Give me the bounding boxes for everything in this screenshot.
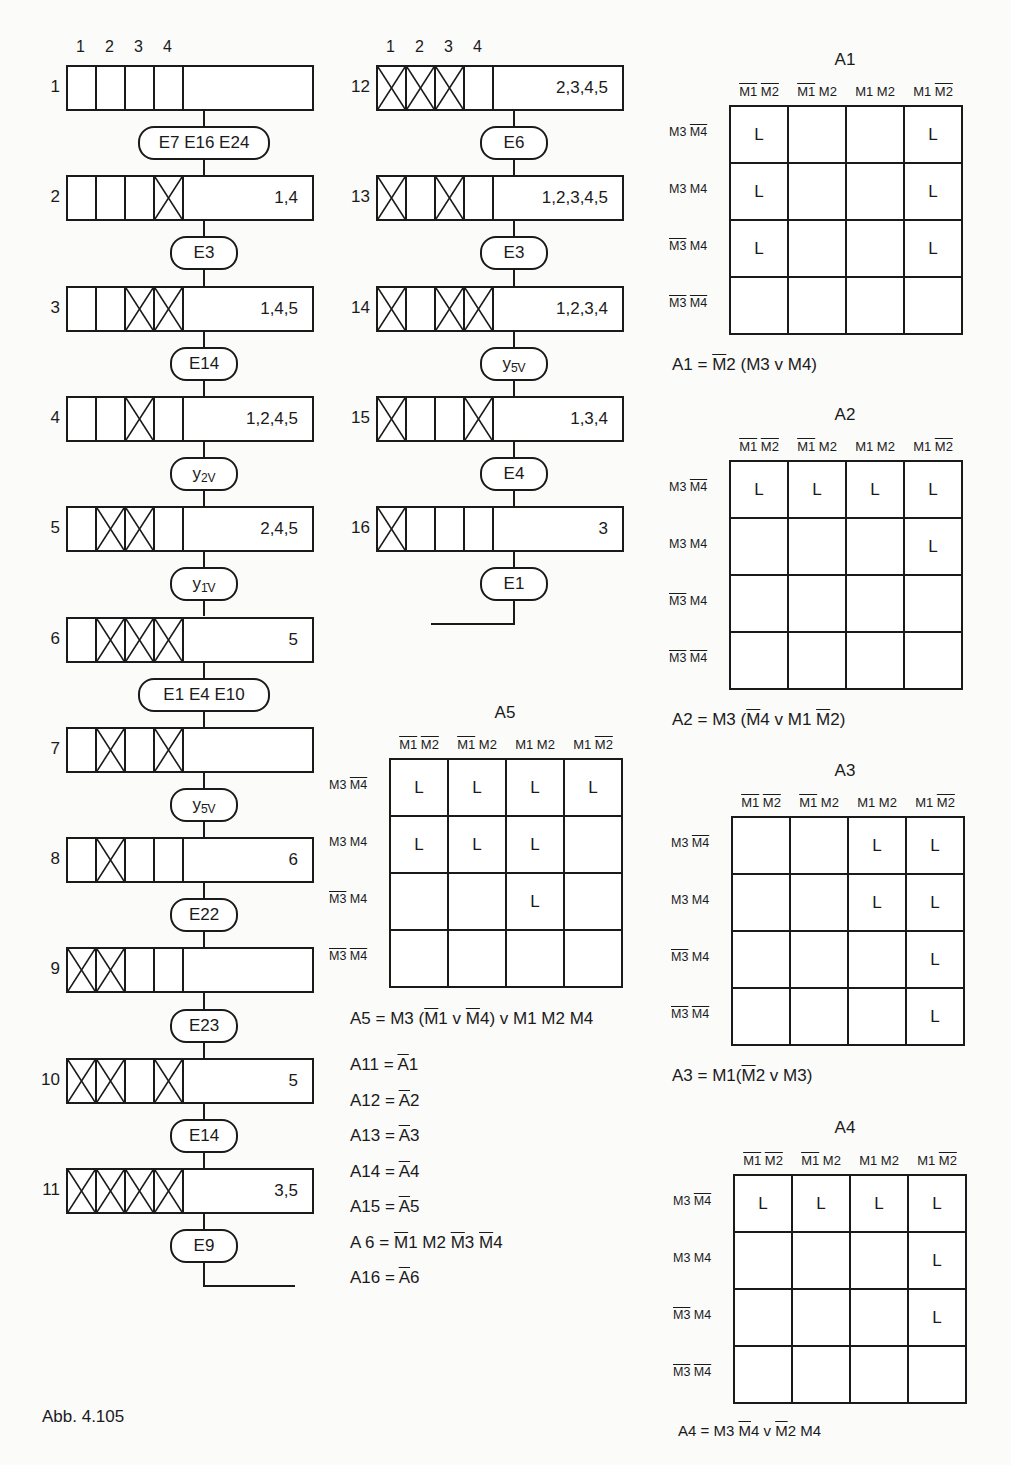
empty-cell <box>97 177 126 219</box>
condition-subscript: 2V <box>201 471 216 485</box>
kmap-column-headers: M1 M2M1 M2M1 M2M1 M2 <box>390 737 622 752</box>
text-segment: M4 <box>686 239 707 253</box>
condition-label: E14 <box>189 354 219 373</box>
empty-cell <box>407 398 436 440</box>
empty-cell <box>68 839 97 881</box>
kmap-column-headers: M1 M2M1 M2M1 M2M1 M2 <box>730 439 962 454</box>
negated-term: M3 <box>671 1007 688 1021</box>
condition-label: E3 <box>504 243 525 262</box>
text-segment: 4) v M1 M2 M4 <box>480 1009 593 1028</box>
negated-term: M <box>775 1422 788 1439</box>
kmap-cell <box>789 221 845 276</box>
step-value: 1,2,3,4 <box>494 288 622 330</box>
kmap-cell: L <box>905 107 961 162</box>
kmap-cell <box>847 221 903 276</box>
text-segment: 3 <box>465 1233 479 1252</box>
kmap-cell <box>565 931 621 986</box>
kmap-cell: L <box>507 817 563 872</box>
kmap-cell: L <box>847 462 903 517</box>
kmap-grid: LLLLLL <box>729 105 963 335</box>
step-box: 3 <box>376 506 624 552</box>
transition-condition: E6 <box>480 126 548 160</box>
negated-term: M <box>479 1233 493 1252</box>
kmap-cell: L <box>789 462 845 517</box>
text-segment: A5 = M3 ( <box>350 1009 424 1028</box>
kmap-cell <box>733 818 789 873</box>
step-value: 2,4,5 <box>184 508 312 550</box>
negated-term: M <box>746 710 760 729</box>
negated-term: A <box>399 1091 410 1110</box>
kmap-cell: L <box>731 462 787 517</box>
kmap-cell <box>507 931 563 986</box>
equation: A11 = A1 <box>350 1055 418 1075</box>
kmap-cell <box>847 519 903 574</box>
empty-cell <box>465 177 494 219</box>
crossed-cell <box>155 1170 184 1212</box>
step-box: 5 <box>66 1058 314 1104</box>
condition-label: E9 <box>194 1236 215 1255</box>
text-segment: M1 M2 <box>855 439 895 454</box>
negated-term: M2 <box>421 737 439 752</box>
text-segment: M3 M4 <box>673 1251 711 1265</box>
negated-term: A <box>399 1197 410 1216</box>
kmap-row-header: M3 M4 <box>673 1308 711 1322</box>
crossed-cell <box>126 288 155 330</box>
kmap-column-header: M1 M2 <box>390 737 448 752</box>
kmap-column-header: M1 M2 <box>904 84 962 99</box>
step-value: 5 <box>184 619 312 661</box>
kmap-cell <box>733 932 789 987</box>
empty-cell <box>126 67 155 109</box>
kmap-title: A1 <box>825 50 865 70</box>
text-segment: A12 = <box>350 1091 399 1110</box>
crossed-cell <box>126 508 155 550</box>
step-number: 2 <box>30 187 60 207</box>
negated-term: M1 <box>399 737 417 752</box>
kmap-column-header: M1 M2 <box>908 1153 966 1168</box>
kmap-row-header: M3 M4 <box>673 1194 711 1208</box>
step-box: 1,2,3,4,5 <box>376 175 624 221</box>
negated-term: M3 <box>669 239 686 253</box>
kmap-title: A5 <box>485 703 525 723</box>
empty-cell <box>436 398 465 440</box>
text-segment: M3 <box>671 836 692 850</box>
kmap-cell <box>449 931 505 986</box>
empty-cell <box>97 398 126 440</box>
step-number: 8 <box>30 849 60 869</box>
negated-term: M1 <box>799 795 817 810</box>
kmap-row-header: M3 M4 <box>329 892 367 906</box>
empty-cell <box>126 729 155 771</box>
equation: A14 = A4 <box>350 1162 420 1182</box>
negated-term: M <box>712 355 726 374</box>
text-segment: M2 <box>815 439 837 454</box>
kmap-title: A2 <box>825 405 865 425</box>
empty-cell <box>126 839 155 881</box>
step-number: 10 <box>30 1070 60 1090</box>
condition-label: E23 <box>189 1016 219 1035</box>
negated-term: A <box>399 1268 410 1287</box>
kmap-grid: LLLLL <box>729 460 963 690</box>
crossed-cell <box>155 177 184 219</box>
text-segment: A13 = <box>350 1126 399 1145</box>
kmap-row-header: M3 M4 <box>671 893 709 907</box>
empty-cell <box>155 398 184 440</box>
negated-term: A <box>397 1055 408 1074</box>
kmap-cell <box>731 633 787 688</box>
kmap-column-header: M1 M2 <box>790 795 848 810</box>
empty-cell <box>155 839 184 881</box>
negated-term: M <box>451 1233 465 1252</box>
transition-condition: E3 <box>170 236 238 270</box>
kmap-cell <box>565 874 621 929</box>
exit-line <box>203 1285 295 1287</box>
negated-term: M1 <box>741 795 759 810</box>
kmap-cell <box>793 1290 849 1345</box>
condition-label: E3 <box>194 243 215 262</box>
kmap-row-header: M3 M4 <box>671 950 709 964</box>
transition-condition: E4 <box>480 457 548 491</box>
text-segment: 1 M2 <box>408 1233 451 1252</box>
crossed-cell <box>97 949 126 991</box>
step-box: 1,2,4,5 <box>66 396 314 442</box>
kmap-formula: A2 = M3 (M4 v M1 M2) <box>672 710 845 730</box>
text-segment: 6 <box>410 1268 419 1287</box>
empty-cell <box>465 508 494 550</box>
kmap-row-header: M3 M4 <box>669 537 707 551</box>
